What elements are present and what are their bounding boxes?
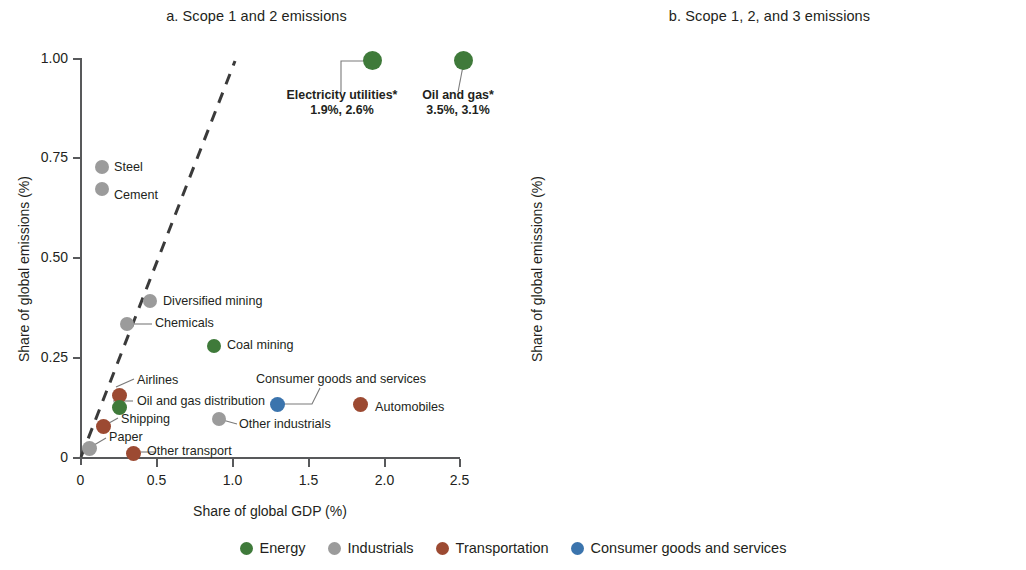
data-point-label-oil-and-gas-distribution: Oil and gas distribution <box>137 395 265 408</box>
data-point-label-shipping: Shipping <box>121 413 170 426</box>
legend-swatch-consumer-icon <box>571 542 584 555</box>
legend-swatch-energy-icon <box>240 542 253 555</box>
data-point-paper[interactable] <box>82 441 97 456</box>
legend-item-industrials[interactable]: Industrials <box>328 540 414 556</box>
legend-item-transportation[interactable]: Transportation <box>436 540 549 556</box>
legend-label-transportation: Transportation <box>456 540 549 556</box>
panel-a-leader-lines <box>0 0 513 530</box>
emissions-scatter-figure: a. Scope 1 and 2 emissions Share of glob… <box>0 0 1026 570</box>
legend-label-energy: Energy <box>260 540 306 556</box>
data-point-label-paper: Paper <box>109 431 143 444</box>
data-point-steel[interactable] <box>95 160 109 174</box>
legend-item-energy[interactable]: Energy <box>240 540 306 556</box>
data-point-label-automobiles: Automobiles <box>375 401 444 414</box>
data-point-cement[interactable] <box>95 182 109 196</box>
data-point-consumer-goods-and-services[interactable] <box>270 397 285 412</box>
callout-oil-and-gas-values: 3.5%, 3.1% <box>396 103 520 118</box>
data-point-label-other-transport: Other transport <box>147 445 232 458</box>
legend-label-industrials: Industrials <box>348 540 414 556</box>
data-point-automobiles[interactable] <box>353 397 368 412</box>
panel-b-scope-1-2-3: b. Scope 1, 2, and 3 emissions Share of … <box>513 0 1026 530</box>
data-point-label-other-industrials: Other industrials <box>239 418 331 431</box>
callout-oil-and-gas-name: Oil and gas* <box>396 88 520 103</box>
data-point-label-steel: Steel <box>114 161 143 174</box>
panel-a-scope-1-2: a. Scope 1 and 2 emissions Share of glob… <box>0 0 513 530</box>
figure-legend: Energy Industrials Transportation Consum… <box>0 540 1026 556</box>
data-point-diversified-mining[interactable] <box>143 294 157 308</box>
data-point-other-industrials[interactable] <box>212 412 226 426</box>
callout-oil-and-gas: Oil and gas* 3.5%, 3.1% <box>396 88 520 118</box>
data-point-other-transport[interactable] <box>126 446 141 461</box>
data-point-label-cement: Cement <box>114 189 158 202</box>
data-point-label-diversified-mining: Diversified mining <box>163 295 262 308</box>
data-point-chemicals[interactable] <box>120 317 134 331</box>
data-point-label-coal-mining: Coal mining <box>227 339 294 352</box>
data-point-coal-mining[interactable] <box>207 339 221 353</box>
data-point-electricity-utilities[interactable] <box>363 51 382 70</box>
data-point-label-chemicals: Chemicals <box>155 317 214 330</box>
data-point-label-consumer-goods-and-services: Consumer goods and services <box>256 373 426 386</box>
legend-item-consumer-goods-and-services[interactable]: Consumer goods and services <box>571 540 787 556</box>
legend-label-consumer-goods-and-services: Consumer goods and services <box>591 540 787 556</box>
legend-swatch-transportation-icon <box>436 542 449 555</box>
panel-b-leader-lines <box>513 0 1026 530</box>
data-point-label-airlines: Airlines <box>137 374 178 387</box>
legend-swatch-industrials-icon <box>328 542 341 555</box>
data-point-oil-and-gas[interactable] <box>454 51 473 70</box>
